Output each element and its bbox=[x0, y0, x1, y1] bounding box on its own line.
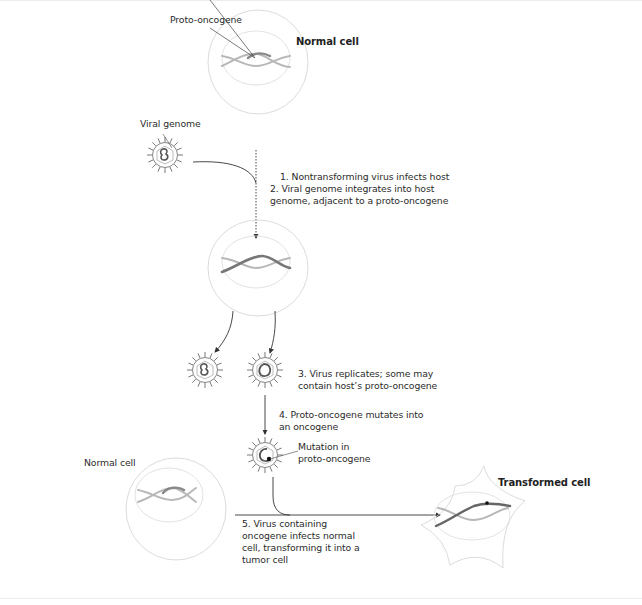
normal-cell-bottom bbox=[126, 458, 226, 560]
infection-curve bbox=[273, 477, 290, 515]
step-5-text: 5. Virus containing oncogene infects nor… bbox=[242, 518, 360, 566]
infection-path bbox=[193, 162, 256, 183]
step-1-text: 1. Nontransforming virus infects host bbox=[280, 171, 449, 183]
replication-arrow-right bbox=[270, 311, 275, 353]
replication-arrow-left bbox=[215, 311, 233, 352]
proto-oncogene-pointer bbox=[210, 28, 255, 58]
proto-oncogene-label: Proto-oncogene bbox=[170, 14, 242, 26]
mutation-label: Mutation in proto-oncogene bbox=[298, 441, 370, 465]
virus-icon bbox=[187, 352, 223, 388]
step-3-text: 3. Virus replicates; some may contain ho… bbox=[298, 368, 437, 392]
step-2-text: 2. Viral genome integrates into host gen… bbox=[270, 183, 448, 207]
normal-cell-bottom-label: Normal cell bbox=[84, 457, 136, 469]
virus-with-oncogene-icon bbox=[247, 437, 283, 473]
virus-with-proto-oncogene-icon bbox=[247, 352, 283, 388]
step-4-text: 4. Proto-oncogene mutates into an oncoge… bbox=[279, 409, 423, 433]
virus-icon bbox=[147, 137, 183, 173]
dna-helix-icon bbox=[222, 54, 290, 67]
diagram-canvas bbox=[0, 0, 642, 605]
viral-genome-label: Viral genome bbox=[140, 118, 201, 130]
infected-host-cell bbox=[208, 220, 308, 316]
transformed-cell-label: Transformed cell bbox=[498, 477, 590, 489]
normal-cell-top-label: Normal cell bbox=[296, 36, 359, 48]
